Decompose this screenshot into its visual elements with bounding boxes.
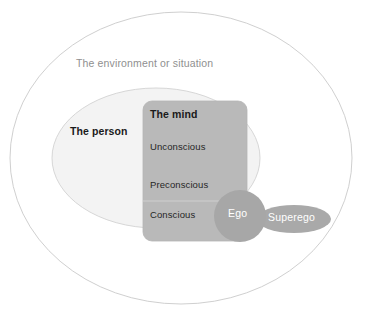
freud-mind-diagram: The environment or situation The person … xyxy=(0,0,370,320)
mind-level-unconscious: Unconscious xyxy=(150,142,206,152)
diagram-canvas xyxy=(0,0,370,320)
environment-label: The environment or situation xyxy=(76,58,213,69)
ego-label: Ego xyxy=(228,208,247,219)
superego-label: Superego xyxy=(268,212,315,223)
person-label: The person xyxy=(70,126,128,137)
mind-label: The mind xyxy=(150,109,197,120)
mind-level-preconscious: Preconscious xyxy=(150,180,208,190)
mind-level-conscious: Conscious xyxy=(150,210,195,220)
